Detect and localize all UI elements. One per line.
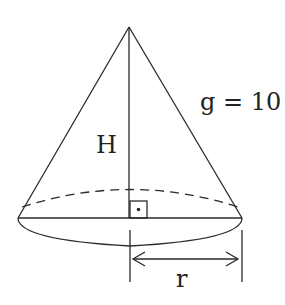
height-label: H (96, 131, 117, 159)
slant-height-label: g = 10 (200, 88, 281, 116)
right-angle-dot (137, 208, 141, 212)
cone-diagram: H g = 10 r (0, 0, 285, 305)
radius-label: r (176, 265, 188, 293)
